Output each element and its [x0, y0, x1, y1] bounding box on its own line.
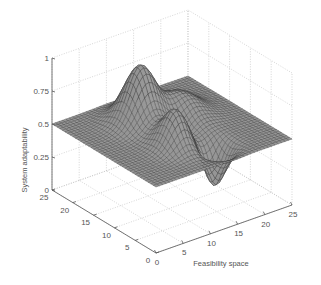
surface-plot: 00.250.50.75105101520250510152025 System… — [0, 0, 321, 285]
x-tick-label: 0 — [155, 258, 160, 267]
z-tick-label: 0.75 — [33, 87, 49, 96]
y-tick-label: 25 — [40, 193, 49, 202]
surface-mesh — [52, 65, 292, 187]
x-axis-label: Feasibility space — [193, 259, 248, 268]
y-tick-label: 10 — [102, 231, 111, 240]
y-tick-label: 0 — [146, 256, 151, 265]
x-tick-label: 15 — [234, 229, 243, 238]
x-tick-label: 5 — [182, 248, 187, 257]
y-tick-label: 15 — [81, 218, 90, 227]
z-tick-label: 0.5 — [38, 120, 50, 129]
y-tick-label: 20 — [60, 206, 69, 215]
y-tick-label: 5 — [125, 243, 130, 252]
x-tick-label: 25 — [289, 210, 298, 219]
z-tick-label: 0.25 — [33, 153, 49, 162]
z-tick-label: 1 — [45, 54, 50, 63]
z-axis-label: System adaptability — [20, 127, 29, 192]
x-tick-label: 10 — [207, 239, 216, 248]
x-tick-label: 20 — [261, 220, 270, 229]
